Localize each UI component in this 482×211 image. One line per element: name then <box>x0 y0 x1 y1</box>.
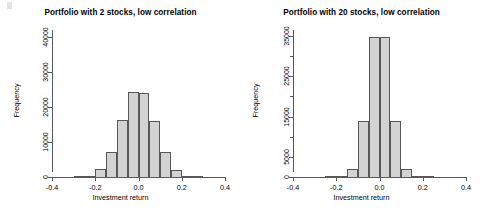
chart-panel-20-stocks: Portfolio with 20 stocks, low correlatio… <box>241 0 482 211</box>
histogram-bar <box>336 176 347 177</box>
histogram-bar <box>380 37 391 177</box>
histogram-bar <box>171 170 182 177</box>
y-axis-left <box>52 30 53 172</box>
x-tick-label: 0.2 <box>177 183 187 192</box>
x-tick-label: -0.2 <box>330 183 342 192</box>
x-tick-label: 0.0 <box>134 183 144 192</box>
x-tick-mark <box>52 177 53 181</box>
histogram-bar <box>401 169 412 177</box>
x-tick-label: -0.2 <box>89 183 101 192</box>
y-tick-label: 35000 <box>283 0 290 134</box>
histogram-bar <box>160 152 171 177</box>
histogram-bar <box>106 152 117 177</box>
histogram-bar <box>95 169 106 177</box>
y-tick-mark <box>289 117 293 118</box>
x-tick-label: 0.4 <box>461 183 471 192</box>
y-tick-mark-minor <box>290 56 293 57</box>
y-axis-right <box>293 30 294 172</box>
histogram-bar <box>74 176 85 177</box>
histogram-bar <box>128 92 139 177</box>
histogram-bar <box>369 37 380 177</box>
x-tick-label: -0.4 <box>46 183 58 192</box>
y-tick-mark-minor <box>290 96 293 97</box>
histogram-bar <box>84 176 95 177</box>
y-tick-mark <box>289 76 293 77</box>
y-tick-mark-minor <box>290 137 293 138</box>
x-axis-title-left: Investment return <box>0 193 241 202</box>
y-tick-mark <box>48 37 52 38</box>
chart-panel-2-stocks: Portfolio with 2 stocks, low correlation… <box>0 0 241 211</box>
histogram-bar <box>390 121 401 177</box>
figure-two-histograms: Portfolio with 2 stocks, low correlation… <box>0 0 482 211</box>
x-tick-label: 0.0 <box>375 183 385 192</box>
histogram-bar <box>347 169 358 177</box>
histogram-bar <box>117 120 128 177</box>
histogram-bar <box>182 176 193 177</box>
x-axis-title-right: Investment return <box>241 193 482 202</box>
x-tick-mark <box>466 177 467 181</box>
histogram-bar <box>149 121 160 177</box>
histogram-bar <box>193 176 204 177</box>
histogram-bar <box>358 121 369 177</box>
x-tick-label: 0.4 <box>220 183 230 192</box>
y-tick-mark <box>289 36 293 37</box>
y-tick-mark <box>48 72 52 73</box>
chart-title-left: Portfolio with 2 stocks, low correlation <box>0 8 241 17</box>
x-tick-mark <box>336 177 337 181</box>
y-axis-title-right: Frequency <box>251 71 260 131</box>
x-tick-label: -0.4 <box>287 183 299 192</box>
histogram-bar <box>139 93 150 177</box>
histogram-bar <box>325 176 336 177</box>
x-tick-label: 0.2 <box>418 183 428 192</box>
x-tick-mark <box>380 177 381 181</box>
y-axis-title-left: Frequency <box>12 71 21 131</box>
y-tick-label: 40000 <box>42 0 49 135</box>
histogram-bar <box>423 176 434 177</box>
histogram-bar <box>412 176 423 177</box>
x-tick-mark <box>225 177 226 181</box>
x-tick-mark <box>293 177 294 181</box>
y-tick-mark <box>289 157 293 158</box>
x-tick-mark <box>182 177 183 181</box>
x-tick-mark <box>423 177 424 181</box>
x-tick-mark <box>139 177 140 181</box>
y-tick-mark <box>48 107 52 108</box>
y-tick-mark <box>48 142 52 143</box>
x-tick-mark <box>95 177 96 181</box>
chart-title-right: Portfolio with 20 stocks, low correlatio… <box>241 8 482 17</box>
